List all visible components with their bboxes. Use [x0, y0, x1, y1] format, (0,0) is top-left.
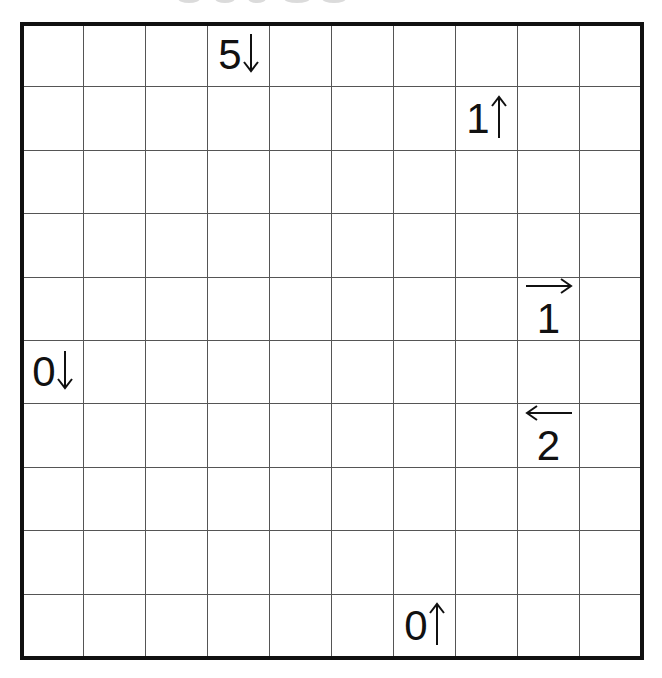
grid-cell[interactable]	[22, 595, 84, 658]
grid-cell[interactable]	[518, 531, 580, 594]
clue-cell[interactable]: 0	[394, 595, 456, 658]
grid-cell[interactable]	[84, 87, 146, 150]
grid-cell[interactable]	[22, 24, 84, 87]
grid-cell[interactable]	[394, 151, 456, 214]
grid-cell[interactable]	[270, 214, 332, 277]
grid-cell[interactable]	[208, 278, 270, 341]
grid-cell[interactable]	[270, 468, 332, 531]
grid-cell[interactable]	[332, 531, 394, 594]
grid-cell[interactable]	[84, 24, 146, 87]
grid-cell[interactable]	[394, 404, 456, 467]
grid-cell[interactable]	[394, 468, 456, 531]
grid-cell[interactable]	[84, 468, 146, 531]
grid-cell[interactable]	[518, 87, 580, 150]
grid-cell[interactable]	[456, 341, 518, 404]
grid-cell[interactable]	[84, 214, 146, 277]
grid-cell[interactable]	[456, 151, 518, 214]
grid-cell[interactable]	[394, 24, 456, 87]
grid-cell[interactable]	[208, 531, 270, 594]
grid-cell[interactable]	[580, 87, 642, 150]
grid-cell[interactable]	[22, 214, 84, 277]
grid-cell[interactable]	[146, 151, 208, 214]
grid-cell[interactable]	[394, 531, 456, 594]
clue-cell[interactable]: 1	[518, 278, 580, 341]
grid-cell[interactable]	[146, 87, 208, 150]
grid-cell[interactable]	[394, 341, 456, 404]
grid-cell[interactable]	[332, 468, 394, 531]
grid-cell[interactable]	[456, 278, 518, 341]
grid-cell[interactable]	[270, 151, 332, 214]
grid-cell[interactable]	[518, 468, 580, 531]
grid-cell[interactable]	[84, 151, 146, 214]
clue-cell[interactable]: 1	[456, 87, 518, 150]
grid-cell[interactable]	[332, 24, 394, 87]
grid-cell[interactable]	[518, 214, 580, 277]
grid-cell[interactable]	[456, 468, 518, 531]
grid-cell[interactable]	[22, 468, 84, 531]
grid-cell[interactable]	[580, 151, 642, 214]
grid-cell[interactable]	[146, 278, 208, 341]
grid-cell[interactable]	[456, 595, 518, 658]
grid-cell[interactable]	[270, 595, 332, 658]
grid-cell[interactable]	[456, 24, 518, 87]
grid-cell[interactable]	[22, 404, 84, 467]
grid-cell[interactable]	[208, 151, 270, 214]
grid-cell[interactable]	[22, 531, 84, 594]
grid-cell[interactable]	[146, 24, 208, 87]
grid-cell[interactable]	[84, 595, 146, 658]
grid-cell[interactable]	[332, 595, 394, 658]
grid-cell[interactable]	[270, 341, 332, 404]
grid-cell[interactable]	[146, 468, 208, 531]
grid-cell[interactable]	[332, 151, 394, 214]
grid-cell[interactable]	[580, 214, 642, 277]
grid-cell[interactable]	[146, 404, 208, 467]
grid-cell[interactable]	[518, 151, 580, 214]
grid-cell[interactable]	[270, 278, 332, 341]
clue-cell[interactable]: 5	[208, 24, 270, 87]
grid-cell[interactable]	[146, 531, 208, 594]
grid-cell[interactable]	[332, 404, 394, 467]
grid-cell[interactable]	[208, 87, 270, 150]
grid-cell[interactable]	[84, 531, 146, 594]
grid-cell[interactable]	[208, 341, 270, 404]
grid-cell[interactable]	[518, 341, 580, 404]
grid-cell[interactable]	[580, 341, 642, 404]
grid-cell[interactable]	[456, 404, 518, 467]
grid-cell[interactable]	[270, 87, 332, 150]
grid-cell[interactable]	[84, 278, 146, 341]
grid-cell[interactable]	[208, 595, 270, 658]
grid-cell[interactable]	[146, 341, 208, 404]
grid-cell[interactable]	[394, 87, 456, 150]
grid-cell[interactable]	[332, 214, 394, 277]
grid-cell[interactable]	[146, 595, 208, 658]
grid-cell[interactable]	[22, 151, 84, 214]
grid-cell[interactable]	[580, 595, 642, 658]
grid-cell[interactable]	[456, 214, 518, 277]
grid-cell[interactable]	[580, 278, 642, 341]
grid-cell[interactable]	[518, 24, 580, 87]
grid-cell[interactable]	[580, 24, 642, 87]
grid-cell[interactable]	[22, 278, 84, 341]
grid-cell[interactable]	[332, 278, 394, 341]
grid-cell[interactable]	[394, 278, 456, 341]
grid-cell[interactable]	[208, 214, 270, 277]
grid-cell[interactable]	[456, 531, 518, 594]
grid-cell[interactable]	[580, 531, 642, 594]
grid-cell[interactable]	[84, 404, 146, 467]
grid-cell[interactable]	[580, 404, 642, 467]
clue-cell[interactable]: 0	[22, 341, 84, 404]
clue-cell[interactable]: 2	[518, 404, 580, 467]
grid-cell[interactable]	[270, 24, 332, 87]
grid-cell[interactable]	[208, 468, 270, 531]
grid-cell[interactable]	[580, 468, 642, 531]
grid-cell[interactable]	[518, 595, 580, 658]
grid-cell[interactable]	[270, 404, 332, 467]
grid-cell[interactable]	[146, 214, 208, 277]
grid-cell[interactable]	[22, 87, 84, 150]
grid-cell[interactable]	[332, 87, 394, 150]
grid-cell[interactable]	[270, 531, 332, 594]
grid-cell[interactable]	[394, 214, 456, 277]
grid-cell[interactable]	[332, 341, 394, 404]
grid-cell[interactable]	[208, 404, 270, 467]
grid-cell[interactable]	[84, 341, 146, 404]
